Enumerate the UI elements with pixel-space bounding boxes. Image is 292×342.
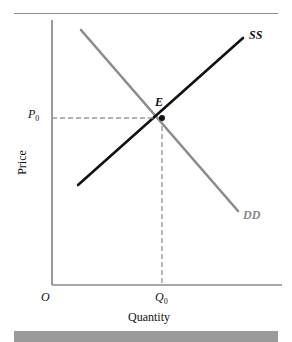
quantity-equilibrium-subscript: 0 [164, 297, 168, 306]
demand-curve [81, 30, 238, 211]
supply-curve-label: SS [249, 28, 262, 43]
x-axis-title: Quantity [128, 310, 170, 325]
supply-demand-figure: SS DD E P0 Q0 O Price Quantity [0, 0, 292, 342]
demand-curve-label: DD [243, 208, 260, 223]
equilibrium-point-marker [159, 115, 165, 121]
quantity-equilibrium-symbol: Q [155, 290, 164, 304]
bottom-gray-bar [14, 331, 278, 342]
price-equilibrium-label: P0 [28, 107, 39, 123]
equilibrium-point-label: E [155, 95, 163, 110]
supply-curve [78, 38, 243, 185]
quantity-equilibrium-label: Q0 [155, 290, 168, 306]
y-axis-title: Price [15, 133, 30, 193]
origin-label: O [41, 290, 50, 305]
price-equilibrium-subscript: 0 [35, 114, 39, 123]
